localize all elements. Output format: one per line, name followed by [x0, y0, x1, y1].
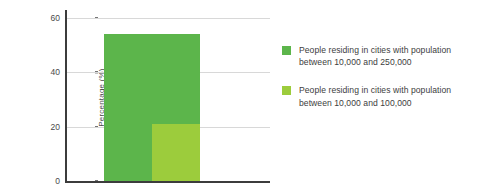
gridline-60 [67, 18, 270, 19]
bar-series-2 [152, 124, 200, 181]
y-axis-tick-marks [30, 18, 60, 181]
plot-area [65, 18, 270, 181]
legend-label-series-1: People residing in cities with populatio… [299, 44, 451, 68]
legend-item-series-2: People residing in cities with populatio… [282, 84, 502, 108]
x-axis-line [65, 181, 270, 183]
legend-label-series-2: People residing in cities with populatio… [299, 84, 451, 108]
chart-legend: People residing in cities with populatio… [282, 44, 502, 125]
chart-figure: Percentage (%) 60 40 20 0 People residin… [0, 0, 504, 194]
legend-item-series-1: People residing in cities with populatio… [282, 44, 502, 68]
legend-swatch-series-1 [282, 46, 291, 55]
y-axis-line [65, 10, 67, 181]
legend-swatch-series-2 [282, 86, 291, 95]
